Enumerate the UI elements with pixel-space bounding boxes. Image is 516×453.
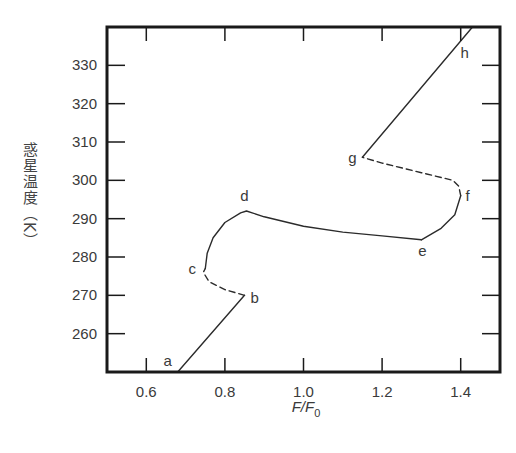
curve-segment-b-c — [203, 269, 244, 296]
curve-segment-a-b — [178, 295, 245, 372]
temperature-curves — [178, 27, 473, 372]
y-tick-label: 290 — [72, 210, 97, 227]
point-label-f: f — [466, 187, 471, 204]
x-tick-label: 0.6 — [136, 383, 157, 400]
point-labels: abcdefgh — [164, 44, 471, 369]
y-tick-label: 320 — [72, 95, 97, 112]
x-axis-ticks: 0.60.81.01.21.4 — [136, 27, 471, 400]
y-tick-label: 330 — [72, 56, 97, 73]
x-tick-label: 1.4 — [450, 383, 471, 400]
point-label-d: d — [240, 187, 248, 204]
axes-box — [107, 27, 500, 372]
x-axis-title: F/F0 — [292, 398, 321, 419]
x-tick-label: 0.8 — [214, 383, 235, 400]
point-label-c: c — [189, 260, 197, 277]
plot-frame — [107, 27, 500, 372]
y-tick-label: 260 — [72, 325, 97, 342]
y-tick-label: 300 — [72, 171, 97, 188]
curve-segment-g-h — [362, 27, 472, 157]
x-tick-label: 1.2 — [372, 383, 393, 400]
point-label-b: b — [250, 289, 258, 306]
x-axis-title-main: F/F — [292, 398, 315, 415]
y-tick-label: 270 — [72, 286, 97, 303]
y-tick-label: 310 — [72, 133, 97, 150]
curve-segment-c-d — [205, 211, 421, 269]
y-axis-ticks: 260270280290300310320330 — [72, 56, 500, 341]
point-label-a: a — [164, 352, 173, 369]
bifurcation-chart: 0.60.81.01.21.4 260270280290300310320330… — [0, 0, 516, 453]
curve-segment-f-g — [362, 157, 460, 195]
point-label-g: g — [348, 149, 356, 166]
point-label-h: h — [460, 44, 468, 61]
point-label-e: e — [418, 242, 426, 259]
y-tick-label: 280 — [72, 248, 97, 265]
y-axis-title: 惑星温度（K） — [20, 142, 40, 249]
x-axis-title-subscript: 0 — [314, 407, 320, 419]
curve-segment-e-f — [421, 196, 460, 240]
